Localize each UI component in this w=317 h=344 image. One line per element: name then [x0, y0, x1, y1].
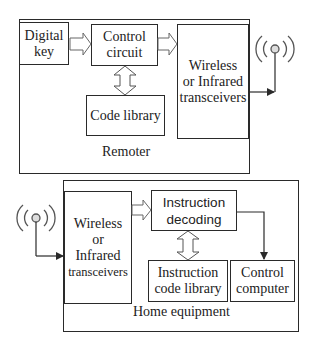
antenna-icon — [256, 36, 294, 62]
control-computer-label: Control computer — [236, 265, 289, 297]
instruction-code-library-block: Instruction code library — [148, 260, 228, 302]
home-transceivers-label: Wireless or Infrared — [74, 216, 122, 264]
digital-key-block: Digital key — [19, 22, 69, 65]
code-library-label: Code library — [90, 108, 160, 124]
code-library-block: Code library — [86, 95, 165, 136]
diagram-canvas: Digital key Control circuit Code library… — [0, 0, 317, 344]
home-equipment-title: Home equipment — [133, 304, 230, 320]
instruction-decoding-block: Instruction decoding — [151, 190, 237, 231]
digital-key-label: Digital key — [25, 28, 64, 60]
remoter-title: Remoter — [102, 144, 150, 160]
home-transceivers-sublabel: transceivers — [68, 264, 128, 280]
remoter-transceivers-label: Wireless or Infrared transceivers — [180, 58, 247, 106]
instruction-decoding-label: Instruction decoding — [163, 194, 225, 228]
remoter-signal-arrow — [249, 53, 275, 92]
home-transceivers-block: Wireless or Infrared transceivers — [64, 191, 132, 304]
antenna-icon — [17, 205, 55, 231]
instruction-code-library-label: Instruction code library — [154, 265, 221, 297]
control-computer-block: Control computer — [230, 260, 295, 302]
remoter-transceivers-block: Wireless or Infrared transceivers — [177, 24, 249, 139]
control-circuit-label: Control circuit — [103, 29, 146, 61]
control-circuit-block: Control circuit — [91, 24, 158, 66]
home-signal-arrow — [36, 222, 63, 256]
